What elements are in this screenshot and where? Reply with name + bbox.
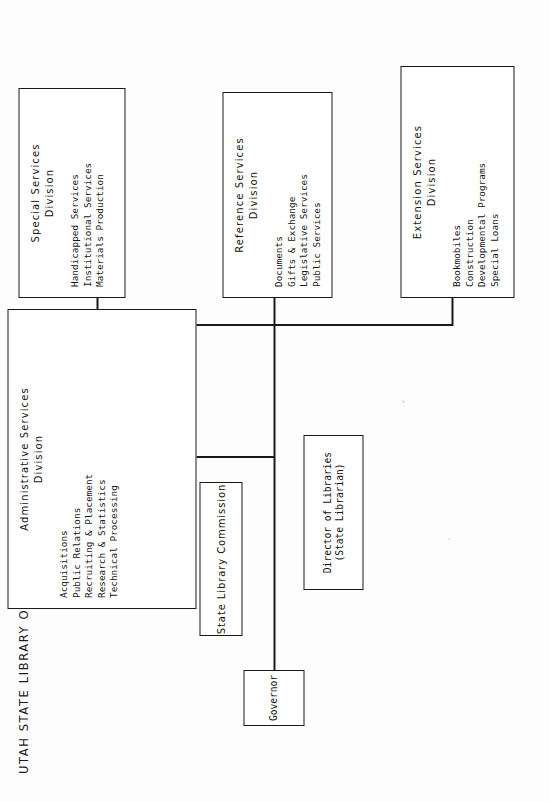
list-item: Gifts & Exchange [285, 174, 298, 287]
scan-speckle [448, 538, 450, 540]
node-director-line2: (State Librarian) [333, 452, 346, 573]
chart-page: UTAH STATE LIBRARY ORGANIZATION CHART Go… [0, 0, 549, 802]
administrative-head-line2: Division [31, 387, 45, 530]
list-item: Materials Production [93, 163, 106, 287]
reference-items: Documents Gifts & Exchange Legislative S… [272, 174, 322, 289]
connector-main-spine [273, 326, 275, 674]
list-item: Legislative Services [297, 174, 310, 287]
list-item: Special Loans [488, 163, 501, 287]
reference-head-line1: Reference Services [232, 137, 246, 253]
extension-head-line2: Division [424, 125, 438, 239]
node-governor[interactable]: Governor [243, 670, 304, 726]
list-item: Construction [463, 163, 476, 287]
special-items: Handicapped Services Institutional Servi… [68, 163, 106, 289]
node-administrative-services-division[interactable]: Administrative Services Division Acquisi… [7, 309, 196, 609]
node-special-services-division[interactable]: Special Services Division Handicapped Se… [18, 88, 125, 298]
connector-extension-stem [451, 298, 453, 326]
node-state-library-commission-label: State Library Commission [214, 484, 227, 634]
list-item: Technical Processing [107, 474, 120, 598]
extension-head-line1: Extension Services [410, 125, 424, 239]
list-item: Acquisitions [57, 474, 70, 598]
list-item: Developmental Programs [475, 163, 488, 287]
chart-canvas: UTAH STATE LIBRARY ORGANIZATION CHART Go… [0, 0, 549, 802]
administrative-head-line1: Administrative Services [17, 387, 31, 530]
reference-head-line2: Division [246, 137, 260, 253]
list-item: Bookmobiles [450, 163, 463, 287]
list-item: Recruiting & Placement [82, 474, 95, 598]
list-item: Research & Statistics [95, 474, 108, 598]
scan-speckle [402, 400, 404, 403]
special-head-line2: Division [42, 144, 56, 243]
connector-administrative-stem [195, 456, 274, 458]
connector-reference-stem [273, 298, 275, 326]
node-state-library-commission[interactable]: State Library Commission [199, 482, 242, 636]
special-head-line1: Special Services [28, 144, 42, 243]
list-item: Public Relations [70, 474, 83, 598]
extension-items: Bookmobiles Construction Developmental P… [450, 163, 500, 289]
node-director-of-libraries[interactable]: Director of Libraries (State Librarian) [303, 435, 363, 590]
list-item: Institutional Services [81, 163, 94, 287]
list-item: Public Services [310, 174, 323, 287]
node-extension-services-division[interactable]: Extension Services Division Bookmobiles … [400, 66, 514, 298]
list-item: Documents [272, 174, 285, 287]
node-governor-label: Governor [267, 675, 280, 721]
node-director-line1: Director of Libraries [321, 452, 334, 573]
node-reference-services-division[interactable]: Reference Services Division Documents Gi… [222, 92, 332, 298]
administrative-items: Acquisitions Public Relations Recruiting… [57, 474, 120, 600]
list-item: Handicapped Services [68, 163, 81, 287]
